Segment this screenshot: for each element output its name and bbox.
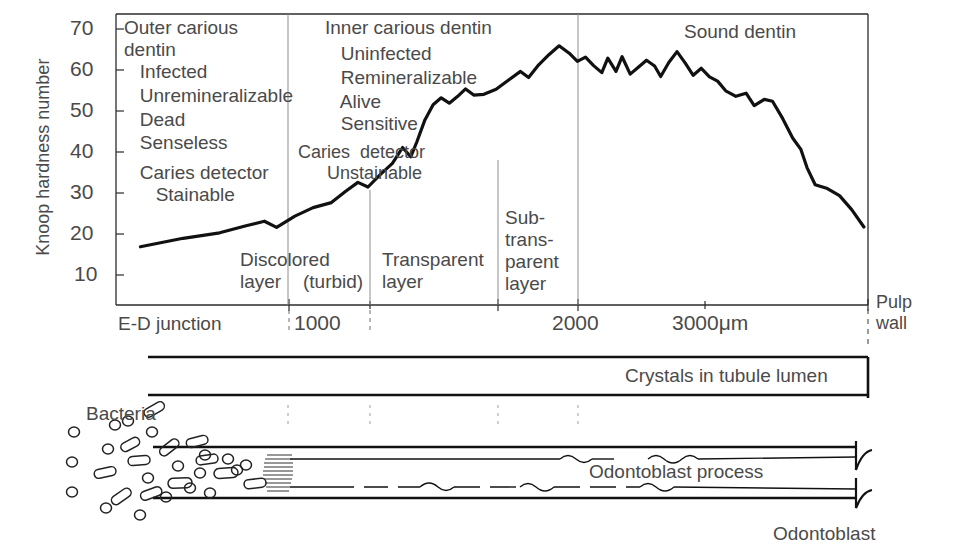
layer-turbid: (turbid) — [303, 272, 363, 291]
zone-outer-carious-title: Outer carious — [124, 18, 238, 37]
zone-inner-carious-alive: Alive — [325, 92, 381, 111]
x-tick-2000: 2000 — [552, 311, 599, 335]
odontoblast-label: Odontoblast — [773, 524, 875, 543]
knoop-hardness-curve — [140, 46, 864, 247]
y-tick-40: 40 — [70, 139, 93, 163]
y-tick-70: 70 — [70, 16, 93, 40]
layer-subtransparent-line2: trans- — [505, 230, 554, 249]
layer-discolored-line1: Discolored — [240, 250, 330, 269]
zone-outer-carious-senseless: Senseless — [124, 133, 228, 152]
layer-subtransparent-line3: parent — [505, 252, 559, 271]
y-axis-ticks — [116, 29, 124, 275]
odontoblast-process-label: Odontoblast process — [589, 462, 763, 481]
y-tick-10: 10 — [74, 262, 97, 286]
layer-subtransparent-line1: Sub- — [505, 208, 545, 227]
zone-outer-carious-dead: Dead — [124, 110, 185, 129]
zone-inner-caries-unstainable: Unstainable — [312, 164, 422, 182]
pulp-wall-label-line1: Pulp — [876, 292, 912, 313]
pulp-wall-label-line2: wall — [876, 313, 907, 334]
layer-transparent-line1: Transparent — [382, 250, 484, 269]
y-axis-title: Knoop hardness number — [34, 47, 52, 267]
plot-frame — [116, 14, 868, 305]
zone-outer-caries-detector: Caries detector — [124, 163, 269, 182]
crystals-in-tubule-lumen-label: Crystals in tubule lumen — [625, 366, 828, 385]
crystal-stipple — [352, 358, 557, 394]
x-tick-ed-junction: E-D junction — [118, 313, 222, 335]
zone-outer-carious-line2: dentin — [124, 40, 176, 59]
y-tick-50: 50 — [70, 98, 93, 122]
layer-discolored-line2: layer — [240, 272, 281, 291]
y-tick-30: 30 — [70, 180, 93, 204]
figure-canvas — [0, 0, 964, 559]
zone-sound-dentin-title: Sound dentin — [684, 22, 796, 41]
bacteria-label: Bacteria — [86, 404, 156, 423]
layer-transparent-line2: layer — [382, 272, 423, 291]
zone-inner-carious-uninfected: Uninfected — [325, 44, 432, 63]
zone-outer-caries-stainable: Stainable — [124, 185, 235, 204]
knoop-hardness-dentin-figure: Knoop hardness number 70 60 50 40 30 20 … — [0, 0, 964, 559]
zone-inner-carious-remineralizable: Remineralizable — [325, 68, 477, 87]
mid-guide-dashes — [288, 405, 578, 428]
zone-inner-carious-title: Inner carious dentin — [325, 18, 492, 37]
layer-subtransparent-line4: layer — [505, 274, 546, 293]
zone-outer-carious-infected: Infected — [124, 62, 207, 81]
zone-inner-caries-detector: Caries detector — [298, 143, 425, 161]
odontoblast-tubule — [153, 441, 872, 508]
y-tick-20: 20 — [70, 221, 93, 245]
y-tick-60: 60 — [70, 57, 93, 81]
zone-outer-carious-unremineralizable: Unremineralizable — [124, 86, 293, 105]
zone-inner-carious-sensitive: Sensitive — [325, 114, 418, 133]
x-tick-1000: 1000 — [294, 311, 341, 335]
x-tick-3000um: 3000μm — [672, 311, 748, 335]
